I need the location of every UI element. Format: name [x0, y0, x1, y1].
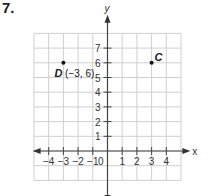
- x-tick-label: 2: [134, 156, 140, 167]
- point-label-d: D (−3, 6): [54, 67, 94, 79]
- x-tick-label: −4: [43, 156, 55, 167]
- y-tick-label: 6: [95, 58, 101, 69]
- x-tick-label: 3: [149, 156, 155, 167]
- y-tick-label: 7: [95, 43, 101, 54]
- x-tick-label: −2: [72, 156, 84, 167]
- x-axis-arrow-right-icon: [182, 148, 190, 154]
- y-tick-label: 2: [95, 117, 101, 128]
- x-axis-label: x: [192, 146, 197, 157]
- coordinate-plane: xy−4−3−2−1123412345670D (−3, 6)C: [0, 0, 209, 196]
- y-axis-arrow-down-icon: [105, 195, 111, 196]
- point-c: [150, 61, 154, 65]
- x-tick-label: −3: [58, 156, 70, 167]
- point-d: [61, 61, 65, 65]
- y-tick-label: 5: [95, 73, 101, 84]
- y-tick-label: 1: [95, 131, 101, 142]
- y-tick-label: 3: [95, 102, 101, 113]
- x-tick-label: 4: [164, 156, 170, 167]
- x-tick-label: 1: [119, 156, 125, 167]
- y-axis-label: y: [104, 3, 111, 14]
- y-tick-label: 4: [95, 87, 101, 98]
- origin-label: 0: [98, 156, 104, 167]
- point-label-c: C: [155, 51, 164, 63]
- y-axis-arrow-up-icon: [105, 15, 111, 23]
